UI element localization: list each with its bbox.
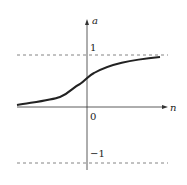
chart: a n 1 0 −1	[0, 0, 187, 185]
x-axis-label: n	[170, 102, 176, 113]
y-axis-arrow-icon	[85, 19, 89, 25]
tick-label-1: 1	[90, 42, 96, 53]
x-axis-arrow-icon	[162, 105, 168, 109]
origin-label: 0	[90, 111, 96, 122]
y-axis-label: a	[92, 15, 98, 26]
tick-label-minus-1: −1	[90, 148, 105, 159]
curve-a-of-n	[17, 57, 160, 105]
